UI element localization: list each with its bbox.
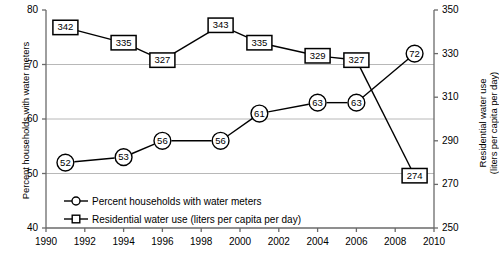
series-segment	[132, 144, 155, 154]
series-segment	[329, 57, 344, 59]
data-point-square	[247, 36, 272, 50]
series-segment	[268, 104, 309, 112]
data-point-circle	[348, 94, 365, 111]
data-point-circle	[251, 105, 268, 122]
data-point-square	[111, 36, 136, 50]
data-point-circle	[57, 154, 74, 171]
data-point-circle	[406, 45, 423, 62]
data-point-circle	[309, 94, 326, 111]
data-series-layer	[53, 18, 427, 183]
data-point-circle	[212, 132, 229, 149]
series-segment	[76, 30, 112, 40]
chart-legend: Percent households with water meters Res…	[63, 192, 301, 228]
gridlines	[46, 65, 434, 174]
data-point-square	[305, 49, 330, 63]
data-point-square	[53, 20, 78, 34]
series-segment	[360, 67, 411, 169]
series-segment	[227, 118, 252, 136]
series-segment	[74, 158, 114, 162]
data-point-square	[344, 53, 369, 67]
data-point-circle	[154, 132, 171, 149]
legend-label-percent-households: Percent households with water meters	[92, 196, 262, 207]
legend-label-residential-water-use: Residential water use (liters per capita…	[92, 214, 301, 225]
legend-circle-marker-icon	[63, 194, 89, 208]
series-segment	[171, 30, 212, 55]
legend-item-residential-water-use: Residential water use (liters per capita…	[63, 210, 301, 228]
data-point-square	[150, 53, 175, 67]
data-point-square	[208, 18, 233, 32]
data-point-square	[402, 168, 427, 182]
series-segment	[271, 45, 307, 53]
legend-item-percent-households: Percent households with water meters	[63, 192, 301, 210]
legend-square-marker-icon	[63, 212, 89, 226]
data-point-circle	[115, 149, 132, 166]
